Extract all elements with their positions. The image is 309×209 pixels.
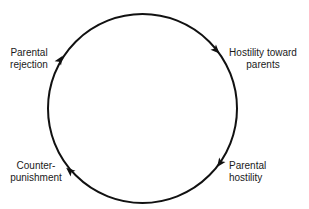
node-label-line: hostility <box>229 172 279 184</box>
node-label-line: Parental <box>229 160 279 172</box>
node-label-counter-punishment: Counter- punishment <box>5 160 67 184</box>
node-label-parental-rejection: Parental rejection <box>4 47 54 71</box>
node-label-line: Hostility toward <box>222 47 304 59</box>
node-label-line: punishment <box>5 172 67 184</box>
node-label-parental-hostility: Parental hostility <box>229 160 279 184</box>
node-label-line: Parental <box>4 47 54 59</box>
node-label-line: parents <box>222 59 304 71</box>
cycle-circle <box>48 14 237 203</box>
node-label-line: Counter- <box>5 160 67 172</box>
node-label-hostility-toward-parents: Hostility toward parents <box>222 47 304 71</box>
node-label-line: rejection <box>4 59 54 71</box>
